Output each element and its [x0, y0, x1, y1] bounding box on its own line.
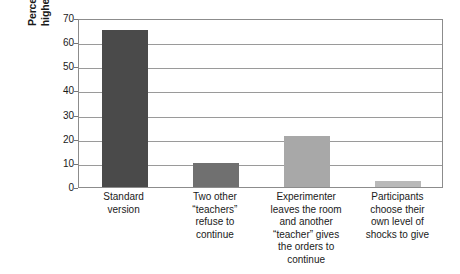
y-axis-tick-label: 70	[48, 14, 74, 24]
x-axis-label-line: Two other	[169, 191, 260, 204]
y-axis-tick-label: 20	[48, 135, 74, 145]
y-axis-tick-label: 60	[48, 38, 74, 48]
y-axis-tick-mark	[74, 188, 78, 189]
x-axis-category-label: Standardversion	[78, 191, 169, 216]
y-axis-tick-label: 10	[48, 159, 74, 169]
y-axis-tick-mark	[74, 19, 78, 20]
x-axis-label-line: version	[78, 204, 169, 217]
x-axis-label-line: Experimenter	[261, 191, 352, 204]
y-axis-tick-label: 0	[48, 183, 74, 193]
bar	[284, 136, 330, 187]
y-axis-tick-mark	[74, 140, 78, 141]
y-axis-tick-mark	[74, 67, 78, 68]
y-axis-tick-mark	[74, 43, 78, 44]
y-axis-tick-mark	[74, 164, 78, 165]
x-axis-category-label: Participantschoose theirown level ofshoc…	[352, 191, 443, 241]
x-axis-label-line: the orders to	[261, 241, 352, 254]
x-axis-label-line: and another	[261, 216, 352, 229]
x-axis-label-line: own level of	[352, 216, 443, 229]
bar	[375, 181, 421, 187]
y-axis-tick-mark	[74, 91, 78, 92]
plot-area	[78, 19, 443, 188]
x-axis-label-line: Participants	[352, 191, 443, 204]
x-axis-category-labels: StandardversionTwo other“teachers”refuse…	[78, 191, 443, 273]
x-axis-label-line: continue	[169, 229, 260, 242]
x-axis-label-line: “teacher” gives	[261, 229, 352, 242]
y-axis-tick-label: 40	[48, 86, 74, 96]
x-axis-label-line: Standard	[78, 191, 169, 204]
y-axis-tick-label: 30	[48, 111, 74, 121]
bars	[79, 20, 442, 187]
bar	[102, 30, 148, 187]
x-axis-label-line: choose their	[352, 204, 443, 217]
bar	[193, 163, 239, 187]
x-axis-label-line: leaves the room	[261, 204, 352, 217]
x-axis-category-label: Experimenterleaves the roomand another“t…	[261, 191, 352, 266]
x-axis-label-line: shocks to give	[352, 229, 443, 242]
x-axis-label-line: “teachers”	[169, 204, 260, 217]
x-axis-category-label: Two other“teachers”refuse tocontinue	[169, 191, 260, 241]
bar-chart: Percentage giving the highest level of s…	[0, 0, 460, 274]
x-axis-label-line: refuse to	[169, 216, 260, 229]
y-axis-tick-label: 50	[48, 62, 74, 72]
y-axis-title-line-1: Percentage giving the	[26, 0, 39, 26]
y-axis-tick-labels: 010203040506070	[48, 19, 74, 188]
y-axis-tick-mark	[74, 116, 78, 117]
x-axis-label-line: continue	[261, 254, 352, 267]
